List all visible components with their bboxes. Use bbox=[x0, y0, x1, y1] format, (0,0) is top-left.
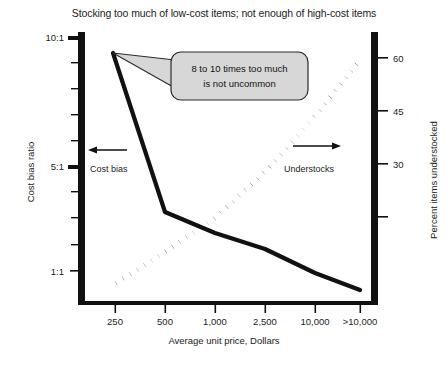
annotation-cost-bias-label: Cost bias bbox=[90, 164, 128, 174]
left-tick-label-1: 5:1 bbox=[51, 161, 64, 172]
x-axis-title: Average unit price, Dollars bbox=[168, 335, 279, 346]
x-tick-label-3: 2,500 bbox=[253, 316, 277, 327]
x-axis-ticks bbox=[115, 305, 362, 313]
left-axis-title: Cost bias ratio bbox=[25, 142, 36, 203]
right-axis-ticks bbox=[378, 57, 388, 218]
x-tick-label-4: 10,000 bbox=[300, 316, 329, 327]
right-tick-label-2: 30 bbox=[393, 159, 404, 170]
left-tick-label-0: 10:1 bbox=[46, 32, 65, 43]
chart-figure: Stocking too much of low-cost items; not… bbox=[0, 0, 448, 370]
bottom-axis-line bbox=[78, 301, 378, 305]
x-tick-label-2: 1,000 bbox=[203, 316, 227, 327]
right-tick-label-1: 45 bbox=[393, 106, 404, 117]
callout-body bbox=[171, 52, 308, 100]
chart-canvas: 10:1 5:1 1:1 Cost bias ratio 60 45 30 Pe… bbox=[0, 0, 448, 370]
x-tick-label-0: 250 bbox=[107, 316, 123, 327]
callout-line-2: is not uncommon bbox=[203, 78, 275, 89]
right-axis-bar bbox=[371, 32, 378, 305]
right-tick-label-0: 60 bbox=[393, 53, 404, 64]
annotation-understocks-label: Understocks bbox=[284, 164, 335, 174]
callout-line-1: 8 to 10 times too much bbox=[191, 63, 287, 74]
x-tick-label-5: >10,000 bbox=[343, 316, 378, 327]
x-tick-label-1: 500 bbox=[157, 316, 173, 327]
right-axis-title: Percent items understocked bbox=[428, 121, 439, 239]
left-tick-label-2: 1:1 bbox=[51, 266, 64, 277]
